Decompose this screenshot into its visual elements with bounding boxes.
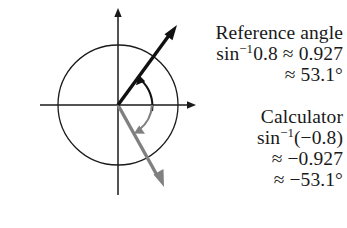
calculator-degree-approx-symbol: ≈ — [274, 169, 285, 190]
calculator-angle-arc — [134, 105, 152, 134]
reference-degree-approx-symbol: ≈ — [285, 64, 296, 85]
reference-radian-value: 0.927 — [299, 43, 343, 64]
calculator-radian-line: ≈ −0.927 — [257, 148, 343, 169]
calculator-heading: Calculator — [257, 106, 343, 127]
reference-degree-value: 53.1° — [301, 64, 343, 85]
calculator-sin-argument: (−0.8) — [294, 127, 343, 148]
calculator-equation-line: sin−1(−0.8) — [257, 127, 343, 148]
calculator-approx-symbol: ≈ — [272, 148, 283, 169]
calculator-sin-exponent: −1 — [280, 126, 294, 140]
reference-approx-symbol: ≈ — [283, 43, 294, 64]
reference-angle-vector — [118, 25, 177, 105]
figure-container: Reference angle sin−10.8 ≈ 0.927 ≈ 53.1°… — [0, 0, 347, 228]
reference-angle-text-block: Reference angle sin−10.8 ≈ 0.927 ≈ 53.1° — [215, 22, 343, 85]
calculator-sin-function: sin — [257, 127, 280, 148]
calculator-angle-vector — [118, 105, 164, 187]
reference-angle-degree-line: ≈ 53.1° — [215, 64, 343, 85]
reference-sin-argument: 0.8 — [253, 43, 278, 64]
reference-sin-exponent: −1 — [239, 42, 253, 56]
y-axis-arrowhead — [114, 8, 121, 17]
calculator-radian-value: −0.927 — [288, 148, 343, 169]
calculator-text-block: Calculator sin−1(−0.8) ≈ −0.927 ≈ −53.1° — [257, 106, 343, 190]
reference-sin-function: sin — [216, 43, 239, 64]
calculator-degree-value: −53.1° — [289, 169, 343, 190]
unit-circle-diagram — [0, 0, 210, 228]
reference-angle-heading: Reference angle — [215, 22, 343, 43]
x-axis-arrowhead — [187, 101, 196, 108]
calculator-degree-line: ≈ −53.1° — [257, 169, 343, 190]
reference-angle-equation-line: sin−10.8 ≈ 0.927 — [215, 43, 343, 64]
